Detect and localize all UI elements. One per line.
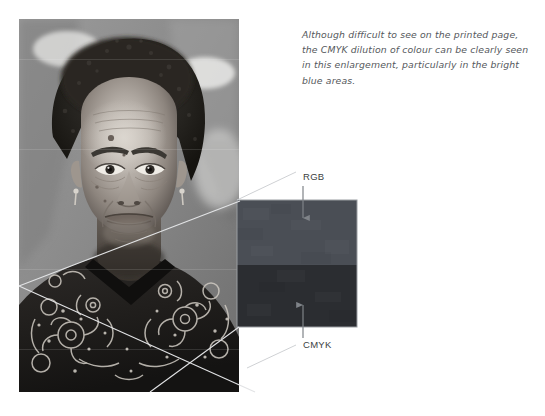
caption-line-3: in this enlargement, particularly in the… [302,57,540,72]
caption-line-4: blue areas. [302,73,540,88]
portrait-photo [19,19,239,392]
portrait-photo-artwork [19,19,239,392]
swatch-cmyk-half [237,265,357,327]
leader-line-rgb [237,172,296,200]
leader-line-cmyk [247,345,296,368]
caption-text: Although difficult to see on the printed… [302,27,540,88]
page-root: Although difficult to see on the printed… [0,0,545,416]
swatch-rgb-half [237,200,357,265]
cmyk-callout-label: CMYK [303,339,332,350]
colour-enlargement-swatch [237,200,357,327]
caption-line-2: the CMYK dilution of colour can be clear… [302,42,540,57]
rgb-callout-label: RGB [303,171,325,182]
caption-line-1: Although difficult to see on the printed… [302,27,540,42]
